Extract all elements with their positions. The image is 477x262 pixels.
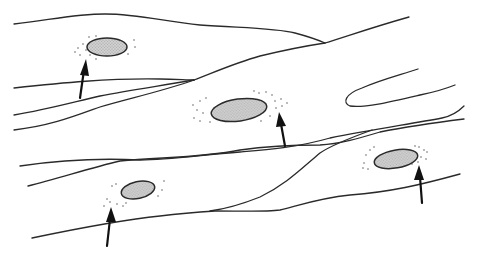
arrowhead-icon: [106, 207, 116, 222]
arrowhead-icon: [414, 165, 424, 180]
cell-membrane-line: [210, 130, 372, 211]
cell-diagram: [0, 0, 477, 262]
arrow-icon: [420, 177, 422, 203]
nucleus-oval: [120, 178, 157, 202]
cell-membrane-line: [14, 80, 194, 130]
arrowhead-icon: [276, 112, 286, 127]
arrow-icon: [281, 124, 285, 146]
arrow-to-nucleus-1: [80, 59, 89, 98]
nucleus-3: [103, 178, 164, 207]
nucleus-oval: [210, 95, 269, 125]
nucleus-2: [192, 90, 287, 124]
cell-membrane-line: [14, 79, 194, 88]
diagram-canvas: [0, 0, 477, 262]
nucleus-4: [362, 145, 427, 171]
cell-outlines: [14, 14, 464, 238]
arrowhead-icon: [80, 59, 89, 76]
cell-membrane-line: [14, 14, 325, 43]
nucleus-1: [74, 35, 135, 59]
nucleus-oval: [87, 38, 127, 56]
cell-membrane-line: [325, 17, 409, 43]
cell-membrane-line: [32, 174, 460, 238]
arrow-to-nucleus-2: [276, 112, 286, 146]
cell-membrane-line: [194, 43, 325, 80]
nucleus-oval: [373, 146, 419, 171]
cell-membrane-line: [346, 69, 455, 106]
arrow-to-nucleus-3: [106, 207, 116, 246]
